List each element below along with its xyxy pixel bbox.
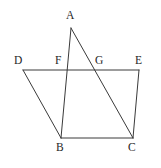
vertex-label-g: G (95, 55, 103, 67)
vertex-label-b: B (56, 142, 64, 154)
segment-AC (71, 28, 133, 138)
vertex-label-e: E (135, 55, 142, 67)
geometry-figure: A B C D E F G (0, 0, 161, 168)
segment-EC (133, 70, 139, 138)
vertex-label-c: C (128, 142, 136, 154)
vertex-label-a: A (66, 10, 74, 22)
vertex-label-d: D (14, 55, 22, 67)
segment-AB (61, 28, 71, 138)
segment-DB (23, 70, 61, 138)
vertex-label-f: F (55, 55, 61, 67)
geometry-canvas (0, 0, 161, 168)
